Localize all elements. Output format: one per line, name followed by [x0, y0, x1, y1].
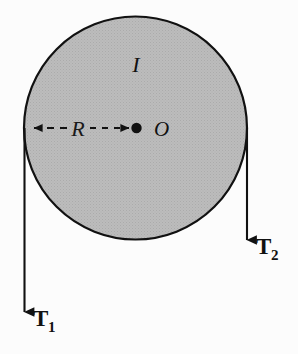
- tension-2-label-subscript: 2: [271, 247, 279, 263]
- tension-1-label-symbol: T: [33, 306, 48, 331]
- diagram-canvas: I R O T 1 T 2: [0, 0, 298, 354]
- center-label: O: [154, 117, 169, 141]
- tension-2-label-symbol: T: [256, 234, 271, 259]
- radius-label: R: [70, 116, 85, 141]
- center-point-dot: [131, 123, 141, 133]
- tension-1-label-subscript: 1: [48, 319, 56, 335]
- pulley-diagram-figure: I R O T 1 T 2: [0, 0, 298, 354]
